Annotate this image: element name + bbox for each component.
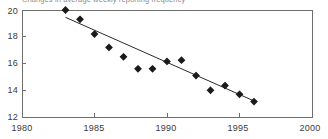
x-tick-label-1985: 1985 (77, 123, 111, 133)
x-tick-label-1995: 1995 (221, 123, 255, 133)
y-tick-label-14: 14 (2, 85, 18, 95)
x-tick-label-1990: 1990 (149, 123, 183, 133)
scatter-plot (0, 0, 328, 139)
x-tick-label-1980: 1980 (5, 123, 39, 133)
y-tick-label-20: 20 (2, 6, 18, 16)
x-tick-label-2000: 2000 (293, 123, 327, 133)
y-tick-label-12: 12 (2, 112, 18, 122)
y-tick-label-16: 16 (2, 58, 18, 68)
y-tick-label-18: 18 (2, 31, 18, 41)
chart-figure: Changes in average weekly reporting freq… (0, 0, 328, 139)
